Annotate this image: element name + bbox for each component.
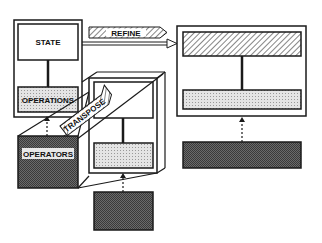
middle-module [89, 72, 165, 173]
refine-arrow: REFINE [82, 27, 177, 48]
middle-operations-box [94, 143, 153, 168]
arrowhead-icon [239, 117, 245, 122]
operators-box [18, 136, 78, 188]
right-module [177, 26, 306, 116]
operators-module: OPERATORS [18, 136, 78, 188]
middle-operators-box [94, 192, 153, 230]
operations-label: OPERATIONS [22, 96, 75, 105]
refined-state-box [183, 32, 301, 56]
refine-arrowhead-icon [167, 39, 177, 48]
diagram-canvas: TRANSPOSE OPERATORS REFINE STATE OPERATI… [0, 0, 322, 243]
refined-operations-box [183, 90, 301, 109]
refined-operators-box [183, 142, 301, 168]
refine-text: REFINE [111, 29, 141, 38]
operators-label: OPERATORS [23, 150, 74, 159]
state-label: STATE [35, 38, 61, 47]
